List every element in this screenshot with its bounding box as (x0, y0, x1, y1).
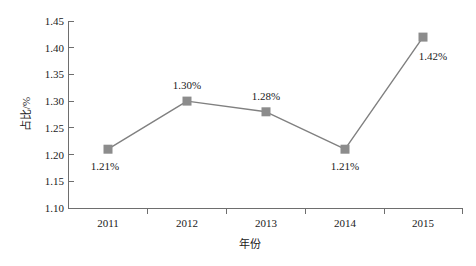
data-label-2015: 1.42% (419, 50, 447, 62)
chart-canvas: 1.45 1.40 1.35 1.30 1.25 1.20 1.15 1.10 … (0, 0, 476, 266)
x-tick-label: 2013 (255, 217, 278, 229)
y-axis-title: 占比/% (19, 97, 32, 131)
y-tick-label: 1.40 (45, 42, 65, 54)
data-point-marker[interactable] (183, 97, 192, 106)
y-tick-label: 1.20 (45, 149, 65, 161)
data-point-marker[interactable] (104, 145, 113, 154)
data-label-2011: 1.21% (91, 160, 119, 172)
data-label-2014: 1.21% (331, 160, 359, 172)
y-tick-label: 1.35 (45, 68, 65, 80)
x-tick-label: 2012 (176, 217, 198, 229)
x-tick-label: 2014 (334, 217, 357, 229)
data-point-marker[interactable] (262, 107, 271, 116)
chart-background (0, 0, 476, 266)
x-tick-label: 2015 (412, 217, 435, 229)
x-axis-title: 年份 (239, 237, 261, 250)
y-tick-label: 1.30 (45, 95, 65, 107)
x-tick-label: 2011 (97, 217, 119, 229)
y-tick-label: 1.45 (45, 15, 65, 27)
y-tick-label: 1.25 (45, 122, 65, 134)
data-point-marker[interactable] (419, 33, 428, 42)
data-point-marker[interactable] (341, 145, 350, 154)
data-label-2013: 1.28% (252, 90, 280, 102)
y-tick-label: 1.15 (45, 175, 65, 187)
y-tick-label: 1.10 (45, 202, 65, 214)
data-label-2012: 1.30% (173, 79, 201, 91)
line-chart: 1.45 1.40 1.35 1.30 1.25 1.20 1.15 1.10 … (0, 0, 476, 266)
